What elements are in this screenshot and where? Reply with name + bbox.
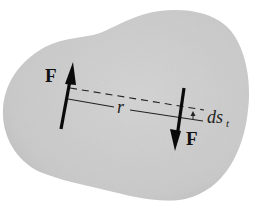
distance-label: r	[117, 97, 125, 117]
force-left-label: F	[45, 65, 57, 86]
couple-moment-diagram: F F r ds t	[0, 0, 257, 206]
displacement-label: ds	[207, 107, 223, 127]
force-right-label: F	[186, 128, 198, 149]
rigid-body	[3, 10, 249, 201]
diagram-canvas: F F r ds t	[0, 0, 257, 206]
